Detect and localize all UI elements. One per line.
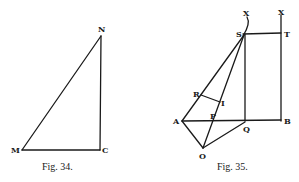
line-ST [243,33,281,34]
label-B: B [284,116,291,126]
line-AO [182,121,203,148]
caption-fig-34: Fig. 34. [42,161,73,172]
label-A: A [172,116,180,126]
label-S: S [236,29,242,39]
label-X1: X [243,8,250,18]
line-AS [182,35,244,121]
label-T: T [284,29,290,39]
label-Q: Q [243,124,250,134]
curve-SX [243,17,248,36]
line-OQ [203,122,245,148]
label-P: P [210,111,216,121]
label-R: R [193,89,200,99]
label-C: C [102,145,108,155]
label-I: I [221,98,225,108]
line-NC [100,36,101,150]
figure-34: N M C Fig. 34. [11,24,108,172]
figure-35: X X S T R I A P Q B O Fig. 35. [172,7,291,172]
line-MN [22,36,101,150]
line-OS [203,35,244,148]
label-N: N [98,24,105,34]
figures-canvas: N M C Fig. 34. X X S T R I A P Q B O Fig… [0,0,299,182]
line-AB [182,120,281,121]
label-X2: X [278,7,285,17]
label-O: O [199,151,206,161]
line-RI [201,95,220,102]
label-M: M [11,145,20,155]
caption-fig-35: Fig. 35. [217,161,248,172]
